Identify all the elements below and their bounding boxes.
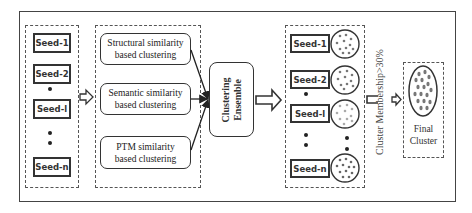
hollow-arrow-icon bbox=[256, 90, 281, 110]
final-cluster-ellipse-icon bbox=[409, 66, 437, 116]
converging-arrows bbox=[191, 50, 208, 150]
hollow-arrow-icon bbox=[392, 94, 401, 105]
cluster-circle-icon bbox=[331, 100, 359, 128]
cluster-circle-icon bbox=[331, 30, 359, 58]
cluster-circle-icon bbox=[331, 154, 359, 182]
hollow-arrow-icon bbox=[80, 90, 93, 104]
diagram-graphics bbox=[0, 0, 472, 213]
cluster-circle-icon bbox=[331, 66, 359, 94]
hollow-arrow-tail-icon bbox=[367, 96, 378, 103]
